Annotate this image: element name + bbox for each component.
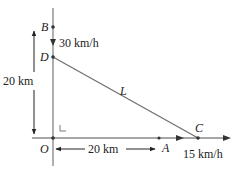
point-D: [51, 55, 55, 59]
motion-arrow-a-icon: [176, 135, 184, 141]
vertical-distance-label: 20 km: [3, 74, 34, 88]
label-O: O: [40, 142, 49, 156]
label-A: A: [161, 141, 170, 155]
point-A: [157, 136, 160, 139]
horizontal-axis-arrow-icon: [223, 135, 231, 141]
right-angle-mark-icon: [60, 125, 66, 131]
label-C: C: [195, 121, 204, 135]
point-C: [196, 136, 200, 140]
vertical-speed-label: 30 km/h: [59, 36, 99, 50]
label-B: B: [41, 20, 49, 34]
label-L: L: [119, 84, 127, 98]
horizontal-speed-label: 15 km/h: [183, 147, 223, 161]
label-D: D: [39, 50, 49, 64]
horizontal-distance-label: 20 km: [88, 142, 119, 156]
motion-arrow-b-icon: [50, 39, 56, 46]
point-O: [51, 136, 55, 140]
diagram-canvas: B D O A C L 30 km/h 15 km/h 20 km 20 km: [0, 0, 244, 169]
point-B: [51, 25, 55, 29]
